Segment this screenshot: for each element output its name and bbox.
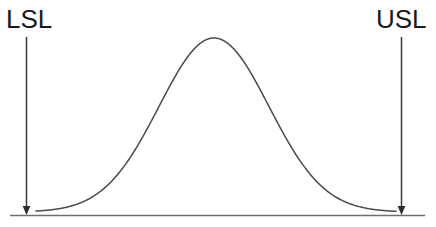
lsl-arrow-head: [23, 206, 31, 215]
lsl-arrow: [23, 37, 31, 215]
usl-arrow: [398, 37, 406, 215]
distribution-diagram: [0, 0, 436, 227]
bell-curve-path: [36, 38, 396, 211]
usl-arrow-head: [398, 206, 406, 215]
usl-label: USL: [376, 6, 427, 32]
figure-canvas: LSL USL: [0, 0, 436, 227]
lsl-label: LSL: [6, 6, 52, 32]
